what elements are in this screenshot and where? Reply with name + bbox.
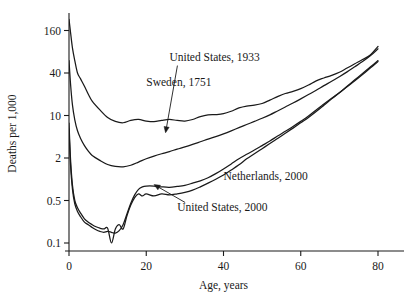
annotation-arrowhead-1 (164, 126, 169, 132)
series-curve-3 (69, 61, 378, 243)
x-ticklabel-40: 40 (218, 260, 230, 272)
series-label-3: United States, 2000 (177, 201, 268, 214)
series-label-0: Sweden, 1751 (146, 76, 211, 89)
y-ticklabel-0.1: 0.1 (47, 237, 62, 249)
series-label-1: United States, 1933 (169, 51, 260, 64)
y-ticklabel-0.5: 0.5 (47, 195, 62, 207)
y-ticklabel-40: 40 (50, 67, 62, 79)
mortality-chart: 0.10.521040160020406080Age, yearsDeaths … (0, 0, 410, 299)
x-axis-title: Age, years (199, 279, 249, 292)
x-ticklabel-20: 20 (141, 260, 153, 272)
x-ticklabel-60: 60 (295, 260, 307, 272)
y-axis-title: Deaths per 1,000 (6, 94, 19, 172)
x-ticklabel-0: 0 (66, 260, 72, 272)
y-ticklabel-2: 2 (55, 152, 61, 164)
series-label-2: Netherlands, 2000 (224, 170, 309, 183)
y-ticklabel-10: 10 (50, 110, 62, 122)
chart-canvas: 0.10.521040160020406080Age, yearsDeaths … (0, 0, 410, 299)
y-ticklabel-160: 160 (44, 25, 62, 37)
series-curve-1 (69, 49, 378, 167)
series-curve-0 (69, 19, 378, 122)
annotation-arrowhead-3 (154, 185, 160, 190)
x-ticklabel-80: 80 (372, 260, 384, 272)
